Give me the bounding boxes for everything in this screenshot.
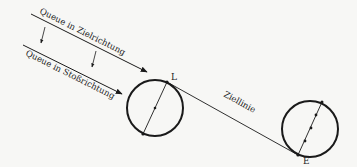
shift-arrow-1: [41, 27, 45, 43]
cue-ball: L: [127, 72, 183, 136]
object-ball-dot-2: [310, 127, 313, 130]
point-e-dot: [296, 153, 299, 156]
cue-ball-bottom-dot: [141, 132, 144, 135]
point-l-label: L: [171, 72, 177, 82]
queue-target-label: Queue in Zielrichtung: [38, 6, 128, 58]
shift-arrow-2: [92, 51, 96, 67]
object-ball-dot-3: [304, 140, 307, 143]
target-line: Ziellinie: [167, 82, 298, 155]
queue-shot-label: Queue in Stoßrichtung: [24, 48, 117, 101]
object-ball-top-dot: [321, 101, 324, 104]
cue-ball-center-dot: [154, 107, 157, 110]
billiard-aiming-diagram: Queue in Zielrichtung Queue in Stoßricht…: [0, 0, 357, 166]
object-ball: E: [282, 101, 338, 167]
point-e-label: E: [303, 156, 310, 166]
target-line-label: Ziellinie: [222, 89, 258, 115]
queue-shot-direction: Queue in Stoßrichtung: [23, 45, 122, 101]
object-ball-dot-1: [315, 114, 318, 117]
